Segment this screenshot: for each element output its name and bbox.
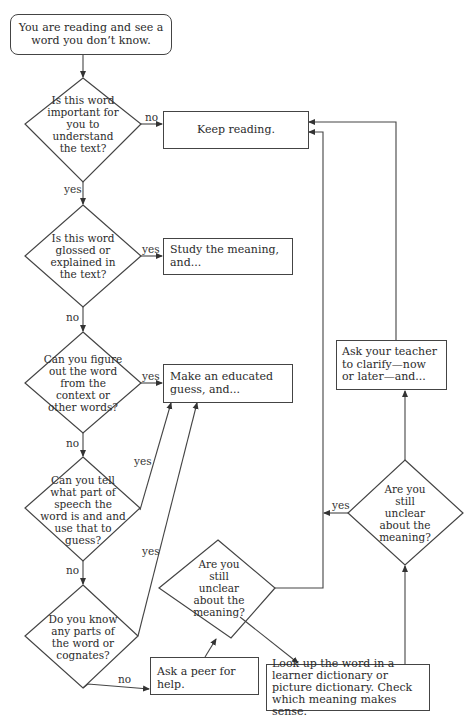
label-pos-no: no — [66, 565, 79, 576]
edge-peer-unclear — [205, 639, 216, 657]
edge-cognates-peer — [83, 684, 149, 689]
label-glossed-yes: yes — [142, 244, 160, 255]
edge-unclear-peer-keep — [275, 132, 323, 588]
start-text: You are reading and see a word you don’t… — [17, 22, 165, 47]
label-context-no: no — [66, 438, 79, 449]
action-guess: Make an educated guess, and... — [163, 364, 293, 403]
decision-unclear-dictionary: Are you still unclear about the meaning? — [375, 488, 435, 538]
decision-glossed: Is this word glossed or explained in the… — [50, 228, 116, 284]
decision-unclear-peer: Are you still unclear about the meaning? — [190, 563, 248, 613]
edge-teacher-keep — [309, 122, 396, 340]
action-keep-reading: Keep reading. — [163, 111, 309, 149]
label-dictionary-unclear-yes: yes — [332, 500, 350, 511]
label-cognates-yes: yes — [142, 546, 160, 557]
action-dictionary: Look up the word in a learner dictionary… — [266, 664, 430, 711]
label-cognates-no: no — [118, 674, 131, 685]
action-teacher: Ask your teacher to clarify—now or later… — [336, 340, 447, 390]
label-pos-yes: yes — [134, 456, 152, 467]
action-peer: Ask a peer for help. — [150, 657, 259, 695]
decision-cognates: Do you know any parts of the word or cog… — [42, 606, 124, 668]
decision-context: Can you figure out the word from the con… — [43, 352, 123, 414]
label-glossed-no: no — [66, 312, 79, 323]
decision-pos: Can you tell what part of speech the wor… — [40, 474, 126, 546]
start-node: You are reading and see a word you don’t… — [10, 14, 172, 55]
action-study: Study the meaning, and... — [163, 238, 293, 275]
label-important-no: no — [145, 112, 158, 123]
decision-important: Is this word important for you to unders… — [43, 96, 123, 152]
label-important-yes: yes — [64, 184, 82, 195]
label-context-yes: yes — [142, 371, 160, 382]
